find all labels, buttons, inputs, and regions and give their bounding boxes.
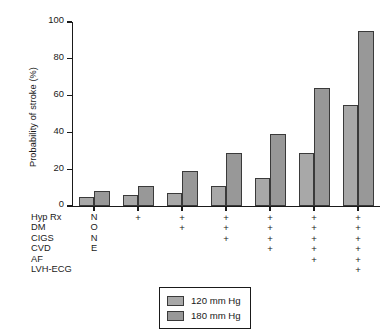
matrix-cell-mark: + [305, 243, 323, 254]
matrix-cell-mark: + [217, 212, 235, 223]
bar [314, 88, 330, 206]
bar [343, 105, 359, 206]
legend-swatch-icon-120 [167, 296, 184, 306]
matrix-cell-none: O [85, 222, 103, 232]
bar [358, 31, 374, 206]
y-tick-mark: 60 [67, 95, 72, 96]
legend: 120 mm Hg 180 mm Hg [159, 287, 251, 329]
matrix-cell-none: E [85, 243, 103, 253]
y-tick-mark: 0 [67, 205, 72, 206]
matrix-cell-mark: + [349, 222, 367, 233]
x-tick-mark [313, 206, 314, 211]
legend-label-120: 120 mm Hg [191, 295, 241, 306]
matrix-cell-mark: + [349, 212, 367, 223]
legend-item-120: 120 mm Hg [167, 293, 241, 308]
bar [211, 186, 227, 206]
bar [255, 178, 271, 206]
bar [270, 134, 286, 206]
bar [138, 186, 154, 206]
legend-item-180: 180 mm Hg [167, 308, 241, 323]
y-tick-label: 0 [59, 198, 64, 209]
matrix-cell-mark: + [173, 212, 191, 223]
x-tick-mark [269, 206, 270, 211]
plot-area: 020406080100 [72, 22, 380, 206]
x-tick-mark [357, 206, 358, 211]
y-axis-line [72, 22, 73, 206]
matrix-row-label: CIGS [31, 233, 54, 243]
matrix-cell-mark: + [217, 233, 235, 244]
matrix-cell-mark: + [129, 212, 147, 223]
matrix-cell-mark: + [173, 222, 191, 233]
matrix-cell-mark: + [261, 212, 279, 223]
y-tick-label: 40 [54, 125, 64, 136]
matrix-cell-mark: + [349, 264, 367, 275]
matrix-row-label: Hyp Rx [31, 212, 61, 222]
bar [167, 193, 183, 206]
x-tick-mark [93, 206, 94, 211]
matrix-row-label: AF [31, 254, 43, 264]
bar [299, 153, 315, 206]
matrix-cell-mark: + [217, 222, 235, 233]
bar [79, 197, 95, 206]
y-tick-mark: 80 [67, 58, 72, 59]
matrix-cell-mark: + [261, 222, 279, 233]
legend-swatch-icon-180 [167, 311, 184, 321]
matrix-cell-mark: + [261, 233, 279, 244]
y-tick-label: 100 [48, 14, 64, 25]
y-tick-label: 20 [54, 162, 64, 173]
matrix-row-label: CVD [31, 243, 51, 253]
matrix-cell-mark: + [261, 243, 279, 254]
x-tick-mark [181, 206, 182, 211]
bar [226, 153, 242, 206]
legend-label-180: 180 mm Hg [191, 310, 241, 321]
y-tick-mark: 100 [67, 21, 72, 22]
y-tick-label: 60 [54, 88, 64, 99]
y-tick-mark: 40 [67, 132, 72, 133]
stroke-probability-figure: Probability of stroke (%) 020406080100 H… [0, 0, 387, 332]
matrix-row-label: DM [31, 222, 45, 232]
y-tick-label: 80 [54, 51, 64, 62]
y-axis-title: Probability of stroke (%) [28, 37, 38, 197]
matrix-cell-none: N [85, 212, 103, 222]
matrix-cell-mark: + [305, 222, 323, 233]
bar [123, 195, 139, 206]
x-tick-mark [137, 206, 138, 211]
matrix-cell-mark: + [349, 233, 367, 244]
bar [182, 171, 198, 206]
x-tick-mark [225, 206, 226, 211]
bar [94, 191, 110, 206]
matrix-cell-mark: + [349, 254, 367, 265]
matrix-cell-mark: + [305, 254, 323, 265]
y-tick-mark: 20 [67, 169, 72, 170]
risk-factor-matrix: Hyp RxDMCIGSCVDAFLVH-ECGN++++++O+++++N++… [0, 212, 387, 280]
matrix-row-label: LVH-ECG [31, 264, 72, 274]
matrix-cell-mark: + [305, 212, 323, 223]
matrix-cell-mark: + [305, 233, 323, 244]
matrix-cell-none: N [85, 233, 103, 243]
matrix-cell-mark: + [349, 243, 367, 254]
